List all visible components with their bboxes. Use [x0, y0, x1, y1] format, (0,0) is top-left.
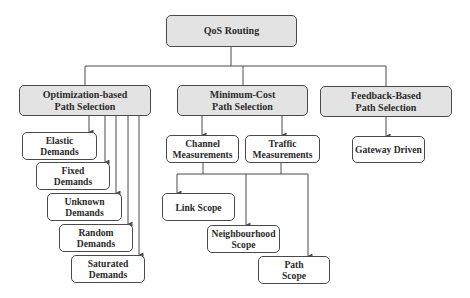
node-label: Fixed Demands: [54, 165, 92, 187]
leaf-link-scope: Link Scope: [162, 193, 235, 221]
node-label: Traffic Measurements: [252, 138, 312, 160]
root-node-qos-routing: QoS Routing: [166, 15, 297, 47]
node-label: Optimization-based Path Selection: [43, 89, 127, 113]
node-label: Unknown Demands: [65, 196, 105, 218]
node-label: Link Scope: [175, 202, 221, 213]
node-label: Path Scope: [282, 259, 306, 281]
node-label: Saturated Demands: [88, 258, 129, 280]
leaf-neighbourhood-scope: Neighbourhood Scope: [207, 225, 280, 253]
leaf-elastic-demands: Elastic Demands: [22, 132, 97, 160]
node-label: Feedback-Based Path Selection: [351, 90, 421, 114]
leaf-fixed-demands: Fixed Demands: [36, 162, 110, 190]
node-label: Minimum-Cost Path Selection: [210, 89, 276, 113]
leaf-channel-measurements: Channel Measurements: [166, 135, 239, 163]
category-feedback-based: Feedback-Based Path Selection: [320, 86, 452, 117]
leaf-random-demands: Random Demands: [59, 224, 133, 252]
leaf-saturated-demands: Saturated Demands: [71, 255, 145, 283]
leaf-path-scope: Path Scope: [258, 256, 330, 284]
leaf-unknown-demands: Unknown Demands: [47, 193, 122, 221]
category-optimization-based: Optimization-based Path Selection: [19, 85, 151, 116]
category-minimum-cost: Minimum-Cost Path Selection: [177, 85, 308, 116]
node-label: Random Demands: [77, 227, 115, 249]
leaf-traffic-measurements: Traffic Measurements: [245, 135, 320, 163]
node-label: Neighbourhood Scope: [212, 228, 276, 250]
node-label: Channel Measurements: [172, 138, 232, 160]
leaf-gateway-driven: Gateway Driven: [352, 136, 425, 163]
node-label: Gateway Driven: [355, 144, 422, 155]
node-label: Elastic Demands: [40, 135, 78, 157]
node-label: QoS Routing: [204, 25, 259, 37]
